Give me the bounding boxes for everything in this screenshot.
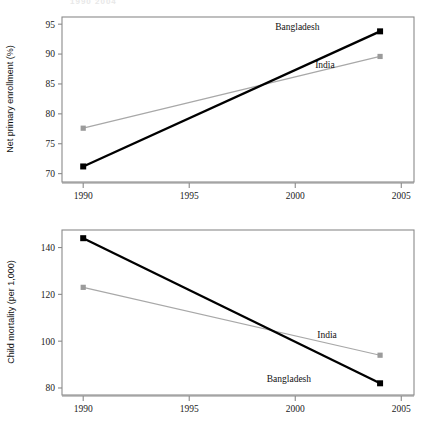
chart-child-mortality: 801001201401990199520002005Child mortali… [0, 213, 426, 426]
chart-net-primary-enrollment: 7075808590951990199520002005Net primary … [0, 0, 426, 213]
data-point-india-1990 [81, 126, 86, 131]
data-point-india-2004 [377, 353, 382, 358]
x-tick-label: 2005 [392, 404, 411, 414]
data-point-bangladesh-1990 [80, 235, 86, 241]
series-label-bangladesh: Bangladesh [267, 374, 312, 384]
y-tick-label: 85 [46, 79, 56, 89]
y-axis-title: Net primary enrollment (%) [5, 45, 15, 153]
plot-frame [62, 17, 414, 182]
y-tick-label: 70 [46, 169, 56, 179]
y-tick-label: 75 [46, 139, 56, 149]
plot-area-bottom: 801001201401990199520002005Child mortali… [6, 230, 414, 414]
series-line-india [83, 287, 380, 355]
x-tick-label: 2005 [392, 191, 411, 201]
y-tick-label: 95 [46, 20, 56, 30]
y-tick-label: 120 [41, 290, 56, 300]
y-tick-label: 140 [41, 243, 56, 253]
data-point-bangladesh-2004 [377, 28, 383, 34]
data-point-bangladesh-1990 [80, 163, 86, 169]
data-point-bangladesh-2004 [377, 380, 383, 386]
x-tick-label: 1990 [74, 191, 93, 201]
chart-bottom-svg: 801001201401990199520002005Child mortali… [0, 213, 426, 426]
series-line-bangladesh [83, 31, 380, 166]
y-tick-label: 100 [41, 337, 56, 347]
y-tick-label: 80 [46, 383, 56, 393]
x-tick-label: 1990 [74, 404, 93, 414]
figure-root: 1990 2004 7075808590951990199520002005Ne… [0, 0, 426, 426]
series-label-india: India [315, 60, 335, 70]
series-line-india [83, 56, 380, 128]
y-axis-title: Child mortality (per 1,000) [6, 260, 16, 364]
chart-top-svg: 7075808590951990199520002005Net primary … [0, 0, 426, 213]
x-tick-label: 1995 [180, 191, 199, 201]
data-point-india-1990 [81, 285, 86, 290]
x-tick-label: 2000 [286, 191, 305, 201]
x-tick-label: 1995 [180, 404, 199, 414]
series-label-bangladesh: Bangladesh [275, 22, 320, 32]
data-point-india-2004 [377, 54, 382, 59]
series-line-bangladesh [83, 238, 380, 383]
series-label-india: India [317, 330, 337, 340]
plot-area-top: 7075808590951990199520002005Net primary … [5, 17, 414, 201]
y-tick-label: 90 [46, 49, 56, 59]
x-tick-label: 2000 [286, 404, 305, 414]
y-tick-label: 80 [46, 109, 56, 119]
